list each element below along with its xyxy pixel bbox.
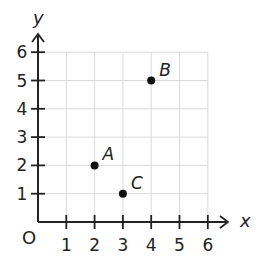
y-tick-label: 5	[17, 71, 28, 91]
y-tick-label: 6	[17, 42, 28, 62]
x-axis-label: x	[239, 210, 251, 231]
origin-label: O	[22, 227, 36, 248]
axis-ticks: 123456123456	[17, 42, 214, 255]
y-tick-label: 2	[17, 155, 28, 175]
x-tick-label: 3	[117, 235, 128, 255]
x-tick-label: 6	[202, 235, 213, 255]
x-tick-label: 1	[61, 235, 72, 255]
axes	[32, 34, 228, 228]
axis-labels: x y O	[22, 7, 251, 248]
y-tick-label: 4	[17, 99, 28, 119]
point-label-a: A	[102, 144, 115, 164]
x-tick-label: 2	[89, 235, 100, 255]
y-axis-label: y	[32, 7, 44, 28]
point-label-c: C	[131, 173, 143, 193]
y-tick-label: 1	[17, 184, 28, 204]
x-tick-label: 4	[146, 235, 157, 255]
point-c	[119, 190, 127, 198]
x-tick-label: 5	[174, 235, 185, 255]
y-tick-label: 3	[17, 127, 28, 147]
coordinate-plane: 123456123456 x y O ABC	[0, 0, 268, 268]
point-b	[147, 77, 155, 85]
point-a	[91, 161, 99, 169]
point-label-b: B	[159, 60, 171, 80]
